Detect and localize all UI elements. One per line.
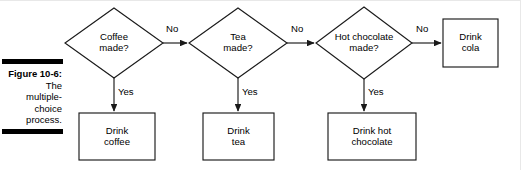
decision-label-coffee-line2: made? [99,42,128,53]
decision-label-hot-chocolate-line2: made? [349,42,378,53]
figure-container: Figure 10-6: The multiple- choice proces… [0,0,521,170]
decision-label-hot-chocolate-line1: Hot chocolate [335,31,394,42]
decision-label-coffee: Coffee made? [74,31,154,54]
decision-label-tea: Tea made? [198,31,278,54]
outcome-label-drink-tea: Drink tea [203,125,274,148]
flowchart-diagram: Coffee made? Tea made? Hot chocolate mad… [0,1,521,170]
decision-label-coffee-line1: Coffee [100,31,128,42]
outcome-label-drink-cola-line1: Drink [459,31,481,42]
decision-label-tea-line2: made? [223,42,252,53]
outcome-label-drink-coffee-line1: Drink [106,125,128,136]
edge-label-no-3: No [416,23,428,34]
outcome-label-drink-tea-line2: tea [232,136,245,147]
outcome-label-drink-hot-chocolate: Drink hot chocolate [328,125,416,148]
decision-label-tea-line1: Tea [230,31,245,42]
edge-label-yes-3: Yes [368,86,384,97]
outcome-label-drink-coffee-line2: coffee [104,136,130,147]
outcome-label-drink-cola: Drink cola [443,31,498,54]
edge-label-yes-1: Yes [118,86,134,97]
decision-label-hot-chocolate: Hot chocolate made? [314,31,414,54]
outcome-label-drink-coffee: Drink coffee [79,125,155,148]
edge-label-no-2: No [291,23,303,34]
outcome-label-drink-tea-line1: Drink [227,125,249,136]
edge-label-no-1: No [166,23,178,34]
edge-label-yes-2: Yes [242,86,258,97]
outcome-label-drink-hot-chocolate-line2: chocolate [351,136,392,147]
outcome-label-drink-cola-line2: cola [462,42,480,53]
outcome-label-drink-hot-chocolate-line1: Drink hot [353,125,391,136]
